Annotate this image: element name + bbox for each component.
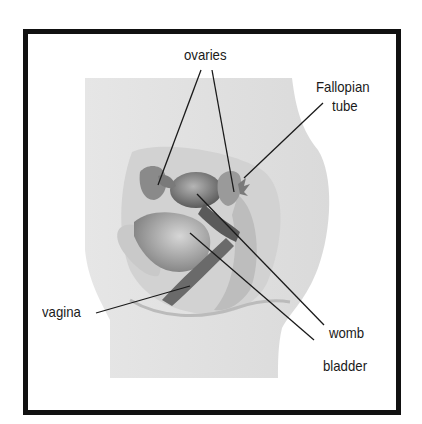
label-ovaries: ovaries bbox=[184, 46, 227, 64]
womb-organ bbox=[170, 172, 222, 208]
label-womb: womb bbox=[329, 324, 364, 342]
label-fallopian-tube-line2: tube bbox=[332, 97, 358, 115]
label-fallopian-tube-line1: Fallopian bbox=[316, 78, 370, 96]
label-vagina: vagina bbox=[42, 303, 81, 321]
label-bladder: bladder bbox=[323, 357, 367, 375]
